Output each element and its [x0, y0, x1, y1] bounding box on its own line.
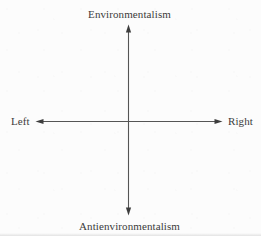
axis-diagram-figure: Environmentalism Antienvironmentalism Le…: [0, 0, 261, 236]
arrowhead-up-icon: [126, 25, 131, 33]
axis-label-right: Right: [228, 115, 253, 127]
arrowhead-down-icon: [126, 208, 131, 216]
arrowhead-right-icon: [215, 119, 223, 124]
axes-group: [0, 0, 261, 236]
axis-label-environmentalism: Environmentalism: [0, 8, 261, 20]
arrowhead-left-icon: [36, 119, 44, 124]
axis-label-antienvironmentalism: Antienvironmentalism: [0, 220, 261, 232]
axis-label-left: Left: [11, 115, 30, 127]
